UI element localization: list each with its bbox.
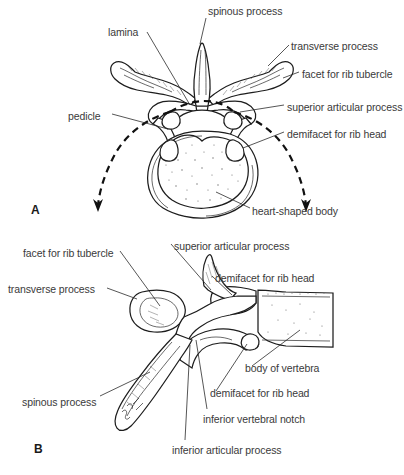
panel-a-leaders bbox=[112, 18, 299, 208]
label-heart-shaped-body: heart-shaped body bbox=[252, 205, 338, 217]
label-facet-for-rib-tubercle-b: facet for rib tubercle bbox=[23, 247, 114, 259]
label-spinous-process-b: spinous process bbox=[22, 396, 96, 408]
label-demifacet-for-rib-head-b-top: demifacet for rib head bbox=[215, 272, 314, 284]
label-transverse-process-a: transverse process bbox=[291, 40, 378, 52]
label-demifacet-for-rib-head-b-low: demifacet for rib head bbox=[210, 387, 309, 399]
label-demifacet-for-rib-head-a: demifacet for rib head bbox=[287, 128, 386, 140]
panel-a-artwork bbox=[93, 18, 311, 218]
arrowhead-left bbox=[93, 199, 103, 212]
label-lamina: lamina bbox=[108, 26, 138, 38]
anatomy-figure: spinous process lamina transverse proces… bbox=[0, 0, 404, 475]
label-transverse-process-b: transverse process bbox=[8, 283, 95, 295]
dashed-arc-left bbox=[98, 112, 170, 206]
label-spinous-process-a: spinous process bbox=[208, 5, 282, 17]
label-inferior-articular-process: inferior articular process bbox=[172, 444, 281, 456]
panel-letter-a: A bbox=[31, 203, 40, 217]
label-body-of-vertebra: body of vertebra bbox=[245, 362, 319, 374]
label-pedicle: pedicle bbox=[68, 110, 101, 122]
label-facet-for-rib-tubercle-a: facet for rib tubercle bbox=[302, 68, 393, 80]
label-superior-articular-process-a: superior articular process bbox=[287, 101, 402, 113]
panel-letter-b: B bbox=[34, 442, 43, 456]
dashed-arc-right bbox=[234, 112, 306, 206]
label-inferior-vertebral-notch: inferior vertebral notch bbox=[203, 413, 305, 425]
label-superior-articular-process-b: superior articular process bbox=[174, 240, 289, 252]
